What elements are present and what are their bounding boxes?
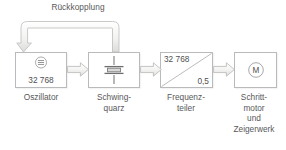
right-block-arrow-icon (140, 62, 162, 77)
caption-schrittmotor-line4: Zeigerwerk (222, 124, 286, 135)
right-block-arrow-icon (67, 62, 89, 77)
caption-frequenzteiler: Frequenz- teiler (150, 92, 222, 113)
caption-schrittmotor-line2: motor (222, 103, 286, 114)
caption-frequenzteiler-line2: teiler (150, 103, 222, 114)
caption-schrittmotor: Schritt- motor und Zeigerwerk (222, 92, 286, 134)
block-schwingquarz (88, 52, 140, 88)
right-block-arrow-icon (213, 62, 235, 77)
caption-schwingquarz-line2: quarz (78, 103, 150, 114)
svg-text:M: M (252, 66, 259, 75)
caption-schrittmotor-line3: und (222, 113, 286, 124)
caption-oszillator: Oszillator (5, 92, 77, 103)
block-oszillator: 32 768 (15, 52, 67, 88)
feedback-label: Rückkopplung (28, 2, 128, 12)
quartz-crystal-symbol-icon (102, 56, 126, 84)
feedback-loop-arrow-icon (16, 16, 136, 54)
caption-schwingquarz-line1: Schwing- (78, 92, 150, 103)
caption-frequenzteiler-line1: Frequenz- (150, 92, 222, 103)
motor-symbol-icon: M (247, 62, 264, 79)
caption-schrittmotor-line1: Schritt- (222, 92, 286, 103)
caption-schwingquarz: Schwing- quarz (78, 92, 150, 113)
block-frequenzteiler: 32 768 0,5 (160, 52, 213, 88)
caption-oszillator-line1: Oszillator (5, 92, 77, 103)
block-diagram: Rückkopplung 32 768 (0, 0, 286, 150)
oscillator-symbol-icon (35, 56, 48, 69)
frequenzteiler-output-value: 0,5 (197, 76, 209, 86)
frequenzteiler-input-value: 32 768 (164, 54, 189, 64)
block-schrittmotor: M (234, 52, 277, 88)
oszillator-value: 32 768 (16, 75, 66, 85)
